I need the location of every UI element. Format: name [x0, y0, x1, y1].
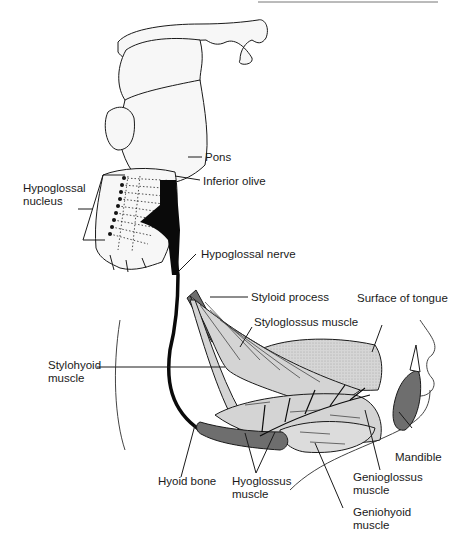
lip-outline — [420, 320, 435, 396]
label-styloglossus-muscle: Styloglossus muscle — [254, 316, 358, 329]
label-inferior-olive: Inferior olive — [203, 175, 266, 188]
label-styloid-process: Styloid process — [251, 291, 329, 304]
brainstem-upper — [105, 20, 267, 184]
label-genioglossus-muscle: Genioglossus muscle — [353, 471, 423, 497]
label-hyoglossus-muscle: Hyoglossus muscle — [232, 475, 291, 501]
jaw-outline — [115, 320, 125, 450]
label-hypoglossal-nucleus: Hypoglossal nucleus — [23, 182, 86, 208]
label-stylohyoid-muscle: Stylohyoid muscle — [48, 359, 101, 385]
label-geniohyoid-muscle: Geniohyoid muscle — [353, 506, 411, 532]
label-hypoglossal-nerve: Hypoglossal nerve — [201, 248, 296, 261]
label-mandible: Mandible — [395, 451, 442, 464]
label-pons: Pons — [205, 151, 231, 164]
figure-root: Pons Inferior olive Hypoglossal nucleus … — [0, 0, 458, 547]
tooth — [410, 345, 420, 372]
anatomy-illustration — [0, 0, 458, 547]
label-hyoid-bone: Hyoid bone — [158, 475, 216, 488]
label-surface-of-tongue: Surface of tongue — [357, 292, 448, 305]
